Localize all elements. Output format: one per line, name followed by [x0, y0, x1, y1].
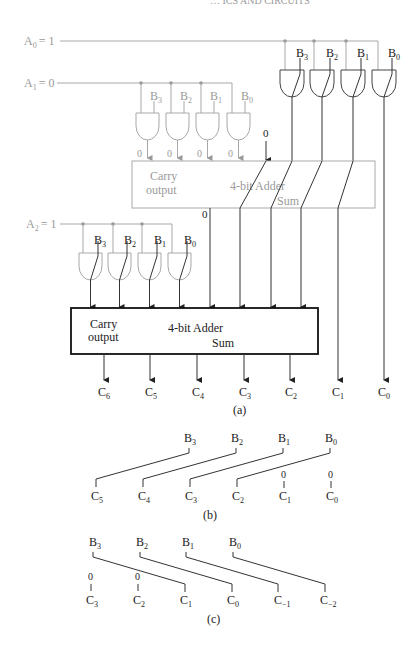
- svg-text:B1: B1: [357, 46, 369, 62]
- and-gate-icon: [108, 241, 131, 307]
- svg-text:B3: B3: [184, 431, 196, 447]
- part-c-shift-diagram: B3 B2 B1 B0 0 0 C3 C2 C1 C0 C−1 C−2 (c): [86, 535, 337, 626]
- and-gate-icon: [79, 241, 102, 307]
- svg-text:B1: B1: [154, 233, 166, 249]
- svg-text:B3: B3: [89, 535, 101, 551]
- svg-text:0: 0: [88, 571, 93, 582]
- svg-text:C0: C0: [227, 593, 239, 609]
- svg-text:B0: B0: [229, 535, 241, 551]
- and-gates-row-a1: B3 B2 B1 B0 0 0 0 0: [136, 89, 253, 159]
- svg-text:B0: B0: [388, 46, 400, 62]
- svg-text:B2: B2: [136, 535, 148, 551]
- svg-text:B0: B0: [325, 431, 337, 447]
- and-gate-icon: [138, 241, 161, 307]
- svg-text:Sum: Sum: [277, 194, 300, 208]
- svg-text:B2: B2: [180, 89, 192, 105]
- input-a1: A1= 0: [24, 76, 232, 113]
- svg-text:C−1: C−1: [274, 593, 291, 609]
- svg-text:output: output: [88, 330, 119, 344]
- svg-text:B1: B1: [182, 535, 194, 551]
- adder-2: Carry output 4-bit Adder Sum: [71, 308, 318, 354]
- svg-text:B1: B1: [278, 431, 290, 447]
- svg-text:B2: B2: [124, 233, 136, 249]
- svg-text:C1: C1: [180, 593, 192, 609]
- svg-text:C5: C5: [145, 385, 157, 401]
- svg-text:B3: B3: [94, 233, 106, 249]
- svg-text:C0: C0: [378, 385, 390, 401]
- svg-text:A0= 1: A0= 1: [24, 34, 54, 50]
- carry-out-zero: 0: [202, 208, 208, 220]
- caption-b: (b): [203, 508, 217, 522]
- svg-text:0: 0: [281, 469, 286, 480]
- svg-text:C2: C2: [133, 593, 145, 609]
- svg-text:C3: C3: [185, 489, 197, 505]
- svg-text:4-bit Adder: 4-bit Adder: [230, 179, 285, 193]
- svg-text:0: 0: [137, 148, 142, 159]
- svg-text:A2= 1: A2= 1: [26, 217, 56, 233]
- part-a-circuit: A0= 1 B3 B2 B1: [24, 34, 400, 417]
- svg-text:B1: B1: [210, 89, 222, 105]
- svg-text:A1= 0: A1= 0: [24, 76, 54, 92]
- svg-text:C−2: C−2: [320, 593, 337, 609]
- svg-text:0: 0: [328, 469, 333, 480]
- svg-text:C3: C3: [86, 593, 98, 609]
- and-gate-icon: [372, 58, 396, 380]
- svg-text:C4: C4: [138, 489, 150, 505]
- svg-text:C5: C5: [91, 489, 103, 505]
- svg-text:B0: B0: [184, 233, 196, 249]
- svg-text:C2: C2: [285, 385, 297, 401]
- and-gate-icon: [168, 241, 191, 307]
- svg-text:0: 0: [135, 571, 140, 582]
- and-gate-icon: [341, 58, 365, 162]
- svg-text:B3: B3: [150, 89, 162, 105]
- svg-text:C3: C3: [239, 385, 251, 401]
- svg-text:C6: C6: [98, 385, 110, 401]
- page-header-fragment: … ICS AND CIRCUITS: [210, 0, 310, 6]
- svg-text:C0: C0: [326, 489, 338, 505]
- adder-1: Carry output 4-bit Adder Sum: [132, 161, 375, 208]
- input-a0: A0= 1: [24, 34, 378, 70]
- svg-text:B2: B2: [231, 431, 243, 447]
- svg-text:C1: C1: [332, 385, 344, 401]
- svg-text:B3: B3: [296, 46, 308, 62]
- part-b-shift-diagram: B3 B2 B1 B0 0 0 C5 C4 C3 C2 C1 C0 (b): [91, 431, 338, 522]
- svg-text:0: 0: [167, 148, 172, 159]
- svg-text:B2: B2: [326, 46, 338, 62]
- svg-text:C1: C1: [279, 489, 291, 505]
- svg-text:Sum: Sum: [212, 336, 235, 350]
- carry-in-zero: 0: [263, 127, 269, 139]
- svg-text:C2: C2: [232, 489, 244, 505]
- svg-text:C4: C4: [192, 385, 204, 401]
- caption-c: (c): [207, 612, 220, 626]
- svg-text:Carry: Carry: [150, 169, 177, 183]
- and-gates-row-a2: B3 B2 B1 B0: [79, 233, 196, 307]
- shift-add-multiplier-diagram: … ICS AND CIRCUITS A0= 1: [0, 0, 418, 651]
- caption-a: (a): [233, 403, 246, 417]
- svg-text:4-bit Adder: 4-bit Adder: [168, 321, 223, 335]
- svg-text:Carry: Carry: [90, 317, 117, 331]
- and-gate-icon: [310, 58, 334, 162]
- svg-text:0: 0: [228, 148, 233, 159]
- outputs: C6 C5 C4 C3 C2 C1 C0: [98, 354, 390, 401]
- svg-text:B0: B0: [241, 89, 253, 105]
- svg-text:output: output: [146, 183, 177, 197]
- svg-text:0: 0: [197, 148, 202, 159]
